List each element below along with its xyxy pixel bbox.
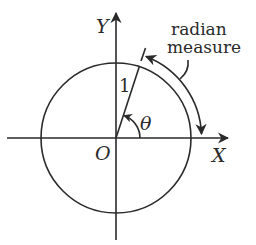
tick-mark [141,48,146,61]
radian-measure-arc [146,57,202,135]
radius-label: 1 [119,75,130,96]
annotation-leader [180,60,188,79]
origin-label: O [95,142,111,164]
angle-arc [124,116,140,139]
angle-label: θ [140,112,152,134]
unit-circle-diagram: Y X O 1 θ radian measure [0,0,256,245]
y-axis-label: Y [96,15,111,37]
x-axis-label: X [210,144,227,166]
annotation-line2: measure [167,37,241,57]
annotation-line1: radian [171,19,227,39]
